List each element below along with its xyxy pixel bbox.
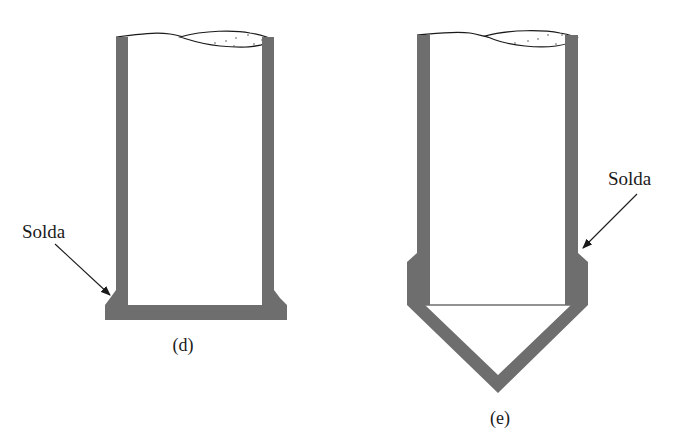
conical-bottom-e — [407, 305, 588, 393]
weld-zone-e — [407, 245, 430, 305]
bottom-plate-d — [105, 290, 287, 320]
caption-d: (d) — [173, 335, 194, 356]
right-wall-e — [565, 35, 578, 265]
panel-e: Solda (e) — [407, 31, 652, 429]
weld-arrow-d — [55, 244, 110, 295]
left-wall-e — [417, 35, 430, 265]
right-wall-d — [262, 37, 274, 307]
liquid-surface-d — [116, 31, 273, 47]
caption-e: (e) — [490, 408, 510, 429]
weld-zone-e-right — [565, 245, 588, 305]
panel-d: Solda (d) — [22, 31, 287, 356]
weld-arrow-e — [583, 194, 637, 248]
diagram-canvas: Solda (d) Solda (e) — [0, 0, 687, 448]
weld-label-d: Solda — [22, 221, 66, 242]
left-wall-d — [116, 37, 128, 307]
weld-label-e: Solda — [608, 168, 652, 189]
liquid-surface-e — [417, 31, 578, 47]
